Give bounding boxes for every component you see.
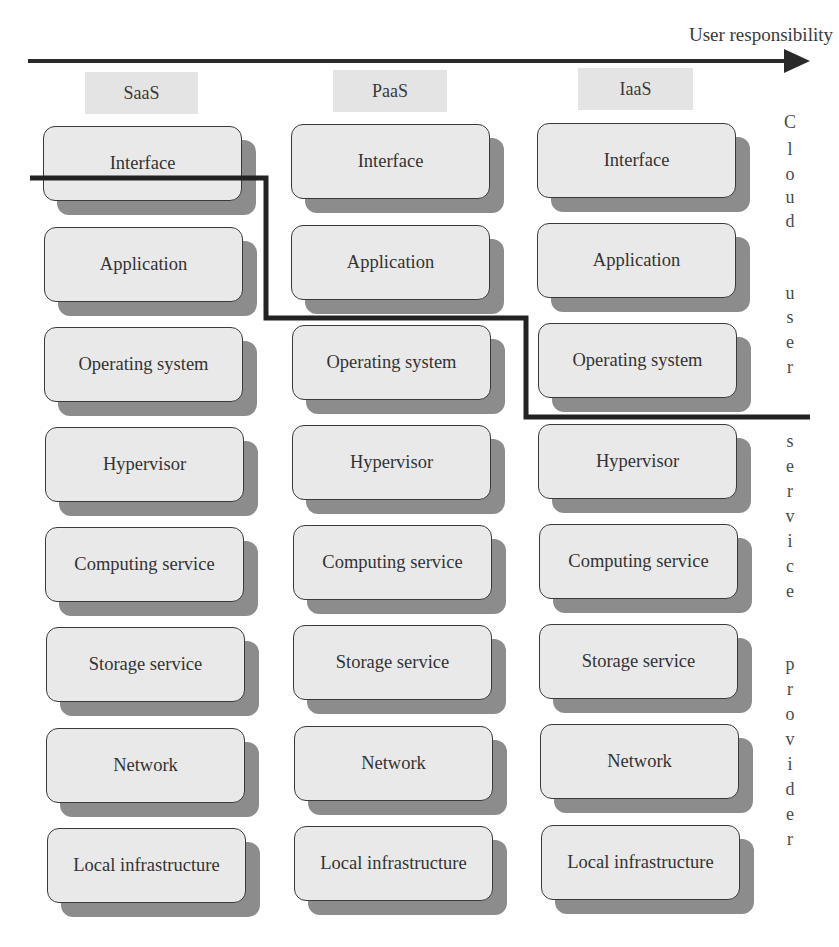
- layer-box-computing-service: Computing service: [539, 524, 738, 599]
- layer-box-operating-system: Operating system: [292, 325, 491, 400]
- side-letter: e: [780, 582, 800, 600]
- layer-label: Computing service: [539, 524, 738, 599]
- layer-box-computing-service: Computing service: [45, 527, 244, 602]
- layer-box-application: Application: [44, 227, 243, 302]
- side-letter: r: [780, 482, 800, 500]
- side-letter: d: [780, 780, 800, 798]
- side-letter: o: [780, 705, 800, 723]
- layer-box-local-infrastructure: Local infrastructure: [47, 828, 246, 903]
- layer-label: Computing service: [45, 527, 244, 602]
- layer-label: Storage service: [293, 625, 492, 700]
- side-letter: p: [780, 655, 800, 673]
- layer-label: Network: [294, 726, 493, 801]
- side-letter: r: [780, 358, 800, 376]
- layer-box-operating-system: Operating system: [44, 327, 243, 402]
- side-letter: v: [780, 507, 800, 525]
- layer-box-computing-service: Computing service: [293, 525, 492, 600]
- side-letter: e: [780, 805, 800, 823]
- side-letter: u: [780, 284, 800, 302]
- layer-box-hypervisor: Hypervisor: [292, 425, 491, 500]
- layer-label: Storage service: [46, 627, 245, 702]
- side-letter: r: [780, 680, 800, 698]
- arrow-shaft: [28, 59, 788, 63]
- side-letter: c: [780, 557, 800, 575]
- column-label-iaas: IaaS: [578, 68, 693, 110]
- layer-box-interface: Interface: [537, 123, 736, 198]
- layer-label: Local infrastructure: [47, 828, 246, 903]
- layer-label: Operating system: [292, 325, 491, 400]
- side-letter: u: [780, 188, 800, 206]
- layer-box-interface: Interface: [291, 124, 490, 199]
- layer-box-hypervisor: Hypervisor: [45, 427, 244, 502]
- column-label-saas: SaaS: [85, 72, 198, 114]
- layer-box-network: Network: [46, 728, 245, 803]
- layer-label: Interface: [291, 124, 490, 199]
- layer-label: Application: [537, 223, 736, 298]
- layer-label: Local infrastructure: [294, 826, 493, 901]
- layer-label: Interface: [537, 123, 736, 198]
- layer-label: Hypervisor: [292, 425, 491, 500]
- layer-label: Operating system: [538, 323, 737, 398]
- side-letter: d: [780, 212, 800, 230]
- arrow-head-icon: [784, 49, 810, 73]
- layer-label: Computing service: [293, 525, 492, 600]
- layer-box-storage-service: Storage service: [46, 627, 245, 702]
- layer-box-storage-service: Storage service: [539, 624, 738, 699]
- side-letter: C: [780, 113, 800, 131]
- side-letter: s: [780, 432, 800, 450]
- column-label-paas: PaaS: [333, 70, 447, 112]
- layer-box-network: Network: [540, 724, 739, 799]
- side-letter: v: [780, 730, 800, 748]
- layer-box-network: Network: [294, 726, 493, 801]
- side-letter: e: [780, 333, 800, 351]
- layer-box-operating-system: Operating system: [538, 323, 737, 398]
- side-letter: e: [780, 457, 800, 475]
- arrow-label: User responsibility: [689, 24, 833, 46]
- side-letter: r: [780, 830, 800, 848]
- layer-label: Network: [46, 728, 245, 803]
- layer-label: Storage service: [539, 624, 738, 699]
- layer-box-local-infrastructure: Local infrastructure: [541, 825, 740, 900]
- layer-label: Network: [540, 724, 739, 799]
- side-letter: i: [780, 532, 800, 550]
- layer-box-application: Application: [537, 223, 736, 298]
- layer-label: Interface: [43, 126, 242, 201]
- side-letter: o: [780, 165, 800, 183]
- side-letter: i: [780, 755, 800, 773]
- layer-label: Local infrastructure: [541, 825, 740, 900]
- layer-box-interface: Interface: [43, 126, 242, 201]
- layer-box-storage-service: Storage service: [293, 625, 492, 700]
- layer-label: Operating system: [44, 327, 243, 402]
- side-letter: l: [780, 140, 800, 158]
- layer-box-hypervisor: Hypervisor: [538, 424, 737, 499]
- layer-box-local-infrastructure: Local infrastructure: [294, 826, 493, 901]
- layer-label: Hypervisor: [45, 427, 244, 502]
- layer-box-application: Application: [291, 225, 490, 300]
- layer-label: Application: [44, 227, 243, 302]
- side-letter: s: [780, 308, 800, 326]
- layer-label: Hypervisor: [538, 424, 737, 499]
- layer-label: Application: [291, 225, 490, 300]
